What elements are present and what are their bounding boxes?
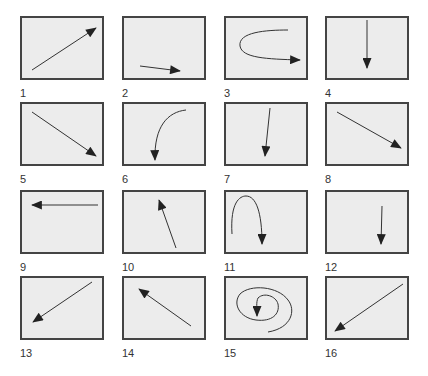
panel-label: 1 (20, 86, 104, 100)
panel-8: 8 (325, 102, 409, 186)
panel-6: 6 (122, 102, 206, 186)
arrow-right-short-icon (122, 16, 206, 80)
panel-2: 2 (122, 16, 206, 100)
panel-3: 3 (224, 16, 308, 100)
panel-16: 16 (325, 276, 409, 360)
panel-label: 11 (224, 260, 308, 274)
arrow-u-turn-right-icon (224, 16, 308, 80)
panel-label: 14 (122, 346, 206, 360)
arrow-left-icon (20, 190, 104, 254)
panel-5: 5 (20, 102, 104, 186)
arrow-arch-down-icon (224, 190, 308, 254)
arrow-down-short-icon (325, 190, 409, 254)
panel-13: 13 (20, 276, 104, 360)
arrow-spiral-icon (224, 276, 308, 340)
arrow-down-slight-left-icon (224, 102, 308, 166)
panel-label: 13 (20, 346, 104, 360)
panel-11: 11 (224, 190, 308, 274)
panel-label: 16 (325, 346, 409, 360)
panel-label: 15 (224, 346, 308, 360)
panel-14: 14 (122, 276, 206, 360)
arrow-down-left-long-icon (325, 276, 409, 340)
panel-15: 15 (224, 276, 308, 360)
panel-label: 10 (122, 260, 206, 274)
panel-label: 2 (122, 86, 206, 100)
panel-12: 12 (325, 190, 409, 274)
panel-10: 10 (122, 190, 206, 274)
arrow-up-left-icon (122, 276, 206, 340)
panel-7: 7 (224, 102, 308, 186)
arrow-down-icon (325, 16, 409, 80)
panel-4: 4 (325, 16, 409, 100)
arrow-up-left-short-icon (122, 190, 206, 254)
panel-label: 4 (325, 86, 409, 100)
panel-9: 9 (20, 190, 104, 274)
arrow-down-left-icon (20, 276, 104, 340)
arrow-down-right-icon (325, 102, 409, 166)
panel-label: 7 (224, 172, 308, 186)
panel-label: 12 (325, 260, 409, 274)
arrow-curve-down-icon (122, 102, 206, 166)
panel-label: 3 (224, 86, 308, 100)
arrow-down-right-icon (20, 102, 104, 166)
panel-label: 6 (122, 172, 206, 186)
arrow-up-right-icon (20, 16, 104, 80)
panel-label: 8 (325, 172, 409, 186)
panel-label: 5 (20, 172, 104, 186)
panel-1: 1 (20, 16, 104, 100)
panel-label: 9 (20, 260, 104, 274)
